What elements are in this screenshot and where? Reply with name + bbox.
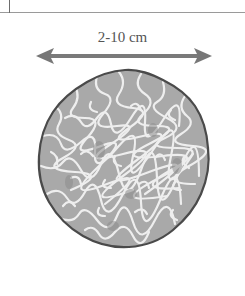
top-divider-line <box>0 12 245 13</box>
truffle-cross-section <box>35 66 213 250</box>
double-arrow-icon <box>36 46 212 66</box>
size-label: 2-10 cm <box>0 29 245 46</box>
top-divider-tick <box>9 0 10 13</box>
